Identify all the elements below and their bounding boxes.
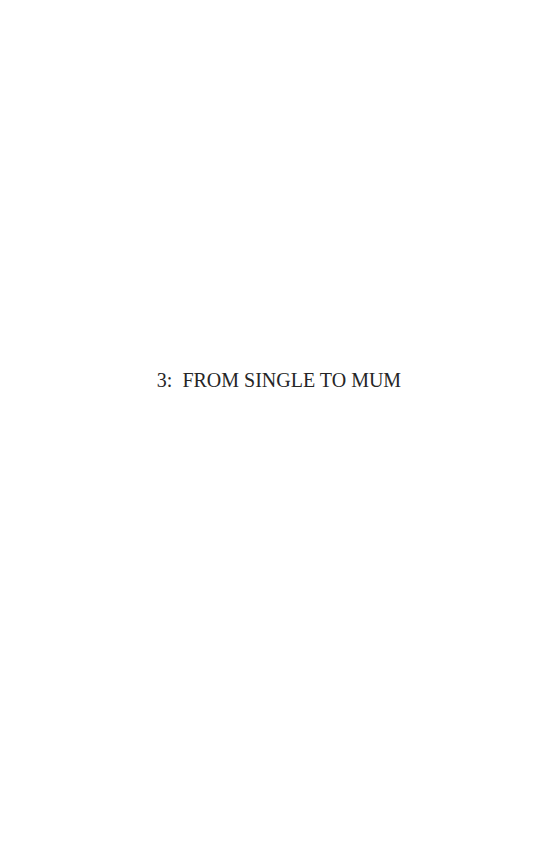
chapter-title: 3: FROM SINGLE TO MUM [0,367,544,393]
book-page: 3: FROM SINGLE TO MUM [0,0,544,862]
